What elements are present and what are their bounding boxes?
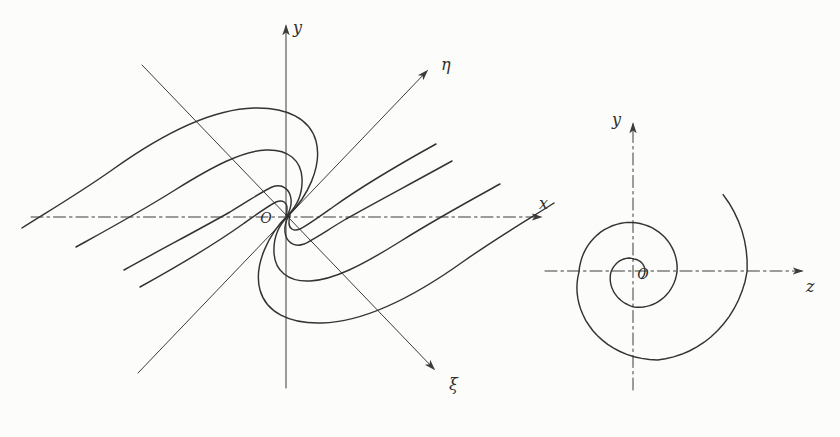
origin-label-left: O (260, 210, 272, 226)
trajectory-curve (124, 186, 291, 270)
left-phase-portrait: x y η ξ O (22, 18, 554, 394)
figure-canvas: x y η ξ O z y O (0, 0, 840, 437)
right-phase-portrait: z y O (545, 110, 815, 390)
trajectory-curve (76, 150, 302, 247)
spiral-trajectory (577, 195, 747, 360)
x-axis-label: x (539, 194, 548, 213)
z-axis-label: z (805, 277, 815, 296)
trajectory-curve (258, 203, 554, 323)
trajectory-curve (285, 161, 452, 245)
trajectory-family-upper (22, 108, 318, 287)
eta-axis-label: η (441, 55, 451, 74)
trajectory-curve (274, 184, 500, 281)
origin-label-right: O (637, 266, 649, 282)
xi-axis-label: ξ (449, 375, 459, 394)
trajectory-family-lower (258, 144, 554, 323)
y-axis-label: y (292, 18, 303, 37)
trajectory-curve (22, 108, 318, 228)
phase-portraits-figure: x y η ξ O z y O (0, 0, 840, 437)
y2-axis-label: y (611, 110, 622, 129)
